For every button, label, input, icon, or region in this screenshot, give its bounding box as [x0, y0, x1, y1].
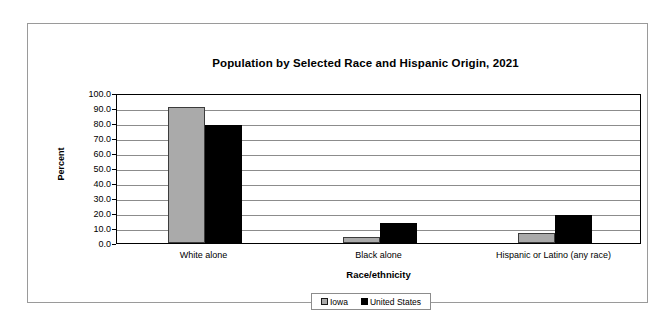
bar	[205, 125, 242, 243]
bar	[343, 237, 380, 243]
x-tick-label: Black alone	[355, 250, 402, 260]
chart-title: Population by Selected Race and Hispanic…	[56, 57, 671, 69]
x-axis-title: Race/ethnicity	[116, 269, 641, 280]
y-tick-label: 10.0	[68, 225, 111, 234]
y-tick-label: 80.0	[68, 120, 111, 129]
bar	[168, 107, 205, 243]
bar	[380, 223, 417, 243]
y-tick-label: 100.0	[68, 90, 111, 99]
legend-label: United States	[370, 297, 421, 307]
legend-label: Iowa	[330, 297, 348, 307]
x-tick-label: White alone	[180, 250, 228, 260]
y-tick-label: 40.0	[68, 180, 111, 189]
plot-area	[116, 94, 641, 244]
legend-entry: Iowa	[321, 297, 348, 307]
chart-legend: IowaUnited States	[311, 293, 431, 310]
legend-swatch-icon	[361, 298, 368, 305]
legend-swatch-icon	[321, 298, 328, 305]
document-frame: Population by Selected Race and Hispanic…	[27, 23, 648, 303]
y-axis-tick-labels: 100.090.080.070.060.050.040.030.020.010.…	[68, 94, 111, 244]
bars-layer	[117, 95, 640, 243]
y-tick-label: 60.0	[68, 150, 111, 159]
x-axis-tick-labels: White aloneBlack aloneHispanic or Latino…	[116, 250, 641, 264]
y-tick-label: 70.0	[68, 135, 111, 144]
bar	[518, 233, 555, 243]
y-tick-label: 0.0	[68, 240, 111, 249]
y-tick-label: 90.0	[68, 105, 111, 114]
chart-page: Population by Selected Race and Hispanic…	[0, 0, 671, 324]
y-tick-label: 50.0	[68, 165, 111, 174]
y-tick-label: 30.0	[68, 195, 111, 204]
legend-entry: United States	[361, 297, 421, 307]
y-axis-title: Percent	[56, 124, 66, 204]
bar	[555, 215, 592, 243]
y-tick-label: 20.0	[68, 210, 111, 219]
y-tick-mark	[112, 244, 116, 245]
x-tick-label: Hispanic or Latino (any race)	[496, 250, 611, 260]
